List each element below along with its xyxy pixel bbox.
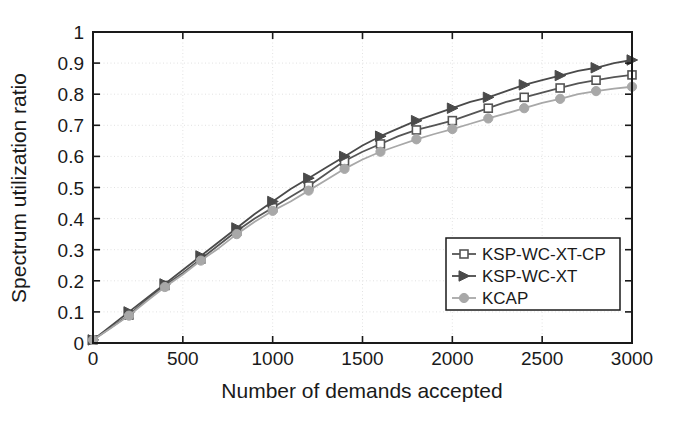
marker-square (412, 126, 420, 134)
x-tick-label: 1500 (341, 348, 383, 369)
marker-circle (459, 293, 468, 302)
marker-circle (448, 124, 457, 133)
marker-circle (124, 311, 133, 320)
marker-square (460, 250, 468, 258)
marker-circle (520, 104, 529, 113)
x-axis-label: Number of demands accepted (221, 379, 502, 402)
marker-circle (556, 94, 565, 103)
marker-square (448, 117, 456, 125)
x-tick-label: 0 (88, 348, 99, 369)
marker-circle (160, 282, 169, 291)
x-tick-label: 2000 (431, 348, 473, 369)
marker-circle (196, 256, 205, 265)
legend-label: KSP-WC-XT (482, 267, 577, 286)
marker-square (484, 104, 492, 112)
y-tick-label: 0.7 (58, 115, 84, 136)
x-tick-label: 1000 (252, 348, 294, 369)
marker-circle (268, 206, 277, 215)
marker-circle (232, 230, 241, 239)
x-tick-label: 3000 (611, 348, 653, 369)
y-tick-label: 0.3 (58, 240, 84, 261)
marker-square (592, 76, 600, 84)
legend-label: KSP-WC-XT-CP (482, 245, 606, 264)
y-tick-label: 1 (73, 22, 84, 43)
y-tick-label: 0.2 (58, 271, 84, 292)
marker-circle (412, 135, 421, 144)
y-tick-label: 0.6 (58, 146, 84, 167)
marker-circle (591, 86, 600, 95)
y-tick-label: 0.8 (58, 84, 84, 105)
x-tick-label: 500 (167, 348, 199, 369)
y-tick-label: 0.4 (58, 209, 85, 230)
chart-legend: KSP-WC-XT-CPKSP-WC-XTKCAP (446, 238, 620, 310)
marker-circle (484, 114, 493, 123)
marker-square (520, 93, 528, 101)
spectrum-utilization-chart: 050010001500200025003000 00.10.20.30.40.… (0, 0, 675, 425)
y-tick-label: 0.9 (58, 53, 84, 74)
y-tick-label: 0 (73, 333, 84, 354)
x-tick-label: 2500 (521, 348, 563, 369)
marker-circle (340, 164, 349, 173)
y-axis-label: Spectrum utilization ratio (7, 73, 30, 303)
y-tick-label: 0.5 (58, 178, 84, 199)
chart-background (0, 0, 675, 425)
legend-label: KCAP (482, 289, 528, 308)
marker-square (556, 84, 564, 92)
y-tick-label: 0.1 (58, 302, 84, 323)
marker-circle (376, 147, 385, 156)
marker-circle (304, 186, 313, 195)
